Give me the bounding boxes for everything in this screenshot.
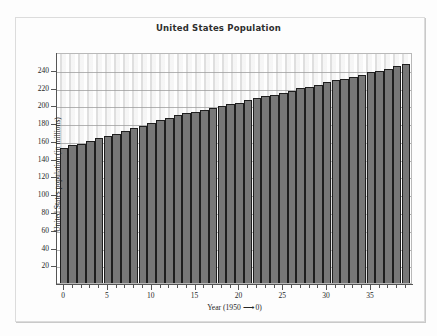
x-tick-label: 10: [138, 291, 164, 300]
x-tick-label: 5: [94, 291, 120, 300]
x-tick-major: [282, 285, 283, 290]
plot-area: [56, 53, 412, 284]
x-tick-label: 20: [225, 291, 251, 300]
x-tick-minor: [160, 285, 161, 288]
bar: [358, 75, 367, 283]
x-tick-minor: [142, 285, 143, 288]
x-tick-major: [151, 285, 152, 290]
bar: [332, 80, 341, 283]
bar: [261, 96, 270, 283]
x-tick-minor: [317, 285, 318, 288]
bar: [139, 126, 148, 283]
x-axis-line: [56, 284, 413, 285]
x-tick-minor: [247, 285, 248, 288]
bar: [95, 138, 104, 283]
bar: [218, 106, 227, 283]
x-tick-minor: [344, 285, 345, 288]
bar: [121, 131, 130, 283]
x-tick-minor: [177, 285, 178, 288]
bar: [367, 72, 376, 283]
x-tick-minor: [186, 285, 187, 288]
bar: [349, 77, 358, 283]
x-tick-minor: [405, 285, 406, 288]
x-tick-minor: [124, 285, 125, 288]
bar: [191, 112, 200, 283]
x-tick-minor: [221, 285, 222, 288]
bar: [305, 87, 314, 283]
bar: [375, 71, 384, 283]
x-tick-minor: [133, 285, 134, 288]
x-tick-minor: [379, 285, 380, 288]
x-tick-minor: [256, 285, 257, 288]
x-tick-minor: [81, 285, 82, 288]
x-tick-minor: [212, 285, 213, 288]
x-tick-minor: [387, 285, 388, 288]
x-tick-major: [238, 285, 239, 290]
x-tick-minor: [230, 285, 231, 288]
x-tick-major: [63, 285, 64, 290]
bar: [253, 98, 262, 283]
y-axis-label: United States population (in millions): [53, 60, 62, 290]
x-tick-minor: [265, 285, 266, 288]
bar: [77, 144, 86, 283]
bar: [226, 104, 235, 283]
x-tick-label: 30: [313, 291, 339, 300]
y-axis-label-holder: United States population (in millions): [22, 40, 36, 290]
bar: [340, 79, 349, 283]
x-tick-minor: [361, 285, 362, 288]
x-tick-minor: [335, 285, 336, 288]
screenshot-canvas: United States Population 204060801001201…: [0, 0, 437, 336]
bar: [288, 91, 297, 283]
bar: [156, 120, 165, 283]
x-tick-major: [195, 285, 196, 290]
bar: [147, 123, 156, 283]
bar: [314, 85, 323, 283]
bar: [174, 115, 183, 283]
bar: [323, 82, 332, 283]
bar: [384, 69, 393, 283]
chart-title: United States Population: [0, 23, 437, 33]
x-tick-minor: [116, 285, 117, 288]
x-tick-minor: [291, 285, 292, 288]
bar: [86, 141, 95, 283]
x-tick-major: [370, 285, 371, 290]
x-tick-label: 25: [269, 291, 295, 300]
x-tick-minor: [396, 285, 397, 288]
bar: [235, 103, 244, 283]
x-tick-minor: [72, 285, 73, 288]
x-tick-minor: [98, 285, 99, 288]
bar: [130, 128, 139, 283]
bar: [200, 110, 209, 283]
x-tick-label: 0: [50, 291, 76, 300]
x-tick-minor: [203, 285, 204, 288]
x-tick-minor: [89, 285, 90, 288]
bar: [279, 93, 288, 283]
x-axis-label: Year (1950 ⟶ 0): [56, 303, 413, 312]
x-tick-major: [326, 285, 327, 290]
bar: [104, 136, 113, 283]
x-tick-label: 35: [357, 291, 383, 300]
x-tick-minor: [352, 285, 353, 288]
bar: [182, 113, 191, 283]
bar: [68, 145, 77, 283]
bar: [402, 64, 411, 283]
bar: [270, 95, 279, 283]
x-tick-minor: [300, 285, 301, 288]
bar: [209, 108, 218, 283]
x-tick-minor: [168, 285, 169, 288]
bar: [393, 66, 402, 283]
bar-series: [57, 54, 411, 283]
bar: [112, 134, 121, 283]
bar: [165, 118, 174, 283]
x-tick-minor: [274, 285, 275, 288]
bar: [244, 100, 253, 283]
x-tick-minor: [309, 285, 310, 288]
x-tick-major: [107, 285, 108, 290]
bar: [296, 88, 305, 283]
x-tick-label: 15: [182, 291, 208, 300]
